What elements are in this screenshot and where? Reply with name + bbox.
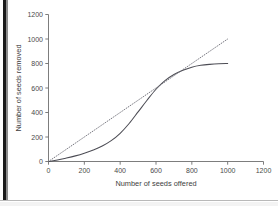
y-tick-label: 600 — [31, 85, 43, 92]
y-tick-label: 200 — [31, 134, 43, 141]
x-tick-label: 600 — [150, 167, 162, 174]
figure-panel: 020040060080010001200 020040060080010001… — [0, 0, 278, 206]
x-tick-label: 800 — [186, 167, 198, 174]
data-series-group — [49, 39, 228, 162]
y-tick-label: 0 — [39, 158, 43, 165]
series-one-to-one-reference — [49, 39, 228, 162]
x-tick-label: 1200 — [256, 167, 272, 174]
y-tick-label: 400 — [31, 109, 43, 116]
y-tick-label: 1200 — [27, 11, 43, 18]
y-axis-ticks: 020040060080010001200 — [27, 11, 48, 165]
x-axis-title: Number of seeds offered — [115, 179, 196, 188]
y-tick-label: 1000 — [27, 36, 43, 43]
series-seeds-removed — [49, 64, 228, 162]
x-tick-label: 1000 — [220, 167, 236, 174]
x-tick-label: 0 — [47, 167, 51, 174]
x-axis-ticks: 020040060080010001200 — [47, 162, 272, 175]
x-tick-label: 400 — [114, 167, 126, 174]
x-tick-label: 200 — [78, 167, 90, 174]
y-tick-label: 800 — [31, 60, 43, 67]
y-axis-title: Number of seeds removed — [14, 44, 23, 131]
line-chart: 020040060080010001200 020040060080010001… — [0, 0, 278, 206]
